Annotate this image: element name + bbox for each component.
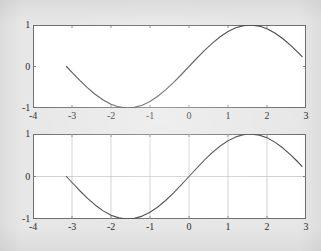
x-tick-label: 1	[226, 222, 231, 232]
y-tick-label: -1	[19, 214, 30, 224]
x-tick-label: 1	[226, 111, 231, 121]
x-tick-label: 0	[187, 111, 192, 121]
x-tick-label: -1	[146, 222, 154, 232]
top-subplot	[33, 25, 306, 108]
x-tick-label: 0	[187, 222, 192, 232]
y-tick-label: 0	[19, 62, 30, 72]
top-subplot-curve-layer	[33, 25, 306, 108]
x-tick-label: 3	[304, 111, 309, 121]
x-tick-label: -2	[107, 111, 115, 121]
y-tick-label: -1	[19, 103, 30, 113]
x-tick-label: -3	[68, 222, 76, 232]
x-tick-label: -2	[107, 222, 115, 232]
x-tick-label: -1	[146, 111, 154, 121]
x-tick-label: 2	[265, 111, 270, 121]
y-tick-label: 0	[19, 172, 30, 182]
bottom-subplot-curve-layer	[33, 134, 306, 219]
x-tick-label: -3	[68, 111, 76, 121]
x-tick-label: -4	[29, 222, 37, 232]
bottom-subplot	[33, 134, 306, 219]
figure-canvas: -4-3-2-10123-101 -4-3-2-10123-101	[0, 0, 321, 251]
data-series-line	[66, 25, 302, 108]
y-tick-label: 1	[19, 129, 30, 139]
x-tick-label: 3	[304, 222, 309, 232]
x-tick-label: 2	[265, 222, 270, 232]
x-tick-label: -4	[29, 111, 37, 121]
y-tick-label: 1	[19, 20, 30, 30]
